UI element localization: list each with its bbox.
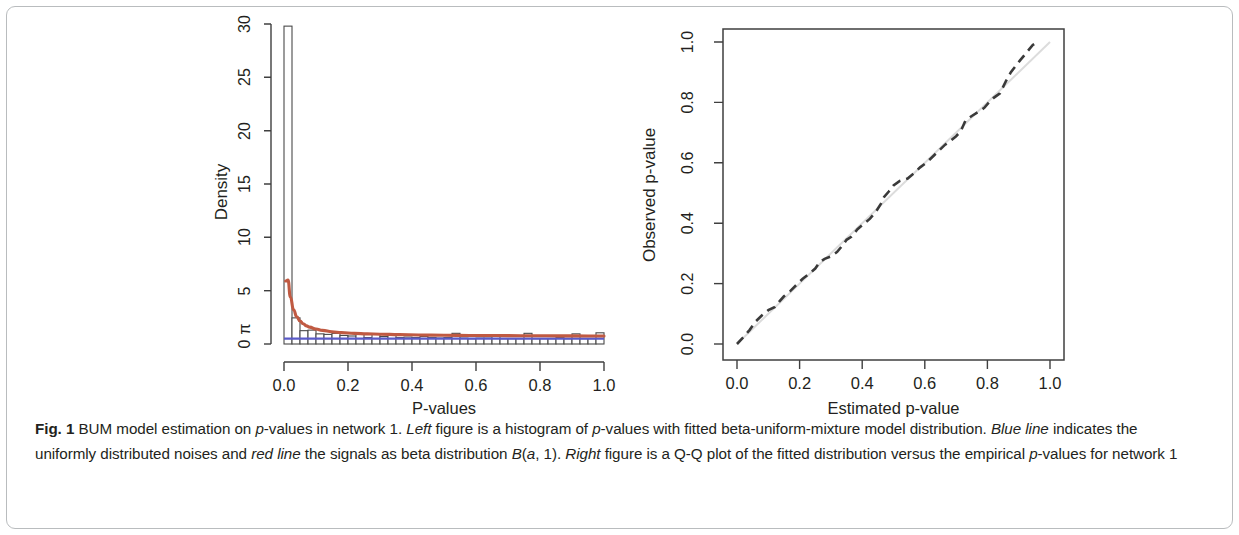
left-red-fitted-curve — [286, 280, 604, 336]
right-y-tick-0: 0.0 — [679, 333, 696, 355]
caption-part: p — [1029, 445, 1037, 462]
left-y-tick-5: 5 — [236, 286, 253, 295]
left-x-tick-labels: 0.0 0.2 0.4 0.6 0.8 1.0 — [273, 376, 616, 394]
left-y-tick-0: 0 — [236, 339, 253, 348]
right-x-tick-1: 0.2 — [788, 374, 811, 392]
right-x-tick-labels: 0.0 0.2 0.4 0.6 0.8 1.0 — [726, 374, 1062, 392]
left-x-tick-3: 0.6 — [465, 376, 488, 394]
caption-part: -values in network 1. — [264, 420, 406, 437]
left-x-tick-4: 0.8 — [529, 376, 552, 394]
caption-part: Fig. 1 — [35, 420, 79, 437]
right-x-tick-0: 0.0 — [726, 374, 749, 392]
left-y-tick-30: 30 — [236, 15, 253, 33]
caption-part: figure is a Q-Q plot of the fitted distr… — [605, 445, 1030, 462]
right-y-axis-title: Observed p-value — [640, 128, 659, 262]
figure-card: Density 30 25 20 15 10 — [6, 6, 1233, 529]
caption-part: Right — [565, 445, 604, 462]
histogram-bar — [348, 336, 356, 344]
figure-plot-area: Density 30 25 20 15 10 — [7, 7, 1233, 407]
caption-part: -values for network 1 — [1038, 445, 1178, 462]
right-x-axis-title: Estimated p-value — [827, 399, 959, 417]
left-x-tick-5: 1.0 — [593, 376, 616, 394]
caption-part: B — [512, 445, 522, 462]
left-y-tick-25: 25 — [236, 68, 253, 86]
caption-part: p — [255, 420, 263, 437]
right-qq-dashed-line — [737, 42, 1037, 344]
right-y-tick-3: 0.6 — [679, 152, 696, 174]
left-histogram-bars — [284, 26, 604, 344]
figure-plots-svg: Density 30 25 20 15 10 — [7, 7, 1233, 407]
right-y-tick-4: 0.8 — [679, 91, 696, 113]
right-panel-qqplot: Observed p-value 0.0 0.2 0.4 0.6 0.8 — [640, 29, 1064, 392]
right-y-axis-ticks — [714, 42, 723, 344]
figure-caption: Fig. 1 BUM model estimation on p-values … — [35, 417, 1200, 466]
left-y-tick-labels: 30 25 20 15 10 5 0 π — [236, 15, 253, 348]
left-y-axis-title: Density — [212, 163, 231, 220]
left-y-tick-10: 10 — [236, 228, 253, 246]
left-y-tick-pi: π — [236, 323, 253, 334]
left-x-tick-0: 0.0 — [273, 376, 296, 394]
left-y-tick-15: 15 — [236, 175, 253, 193]
right-y-tick-labels: 0.0 0.2 0.4 0.6 0.8 1.0 — [679, 31, 696, 355]
right-x-tick-2: 0.4 — [851, 374, 874, 392]
caption-part: Left — [406, 420, 435, 437]
left-x-tick-1: 0.2 — [337, 376, 360, 394]
caption-part: -values with fitted beta-uniform-mixture… — [601, 420, 991, 437]
caption-part: a — [527, 445, 535, 462]
histogram-bar — [300, 331, 308, 344]
caption-part: p — [592, 420, 600, 437]
right-x-tick-5: 1.0 — [1039, 374, 1062, 392]
caption-part: BUM model estimation on — [79, 420, 256, 437]
caption-part: figure is a histogram of — [436, 420, 593, 437]
right-x-axis-title-wrap: Estimated p-value — [723, 399, 1064, 418]
left-y-axis — [264, 24, 271, 344]
right-y-tick-2: 0.4 — [679, 212, 696, 234]
caption-part: red line — [251, 445, 305, 462]
left-y-tick-20: 20 — [236, 122, 253, 140]
right-y-tick-5: 1.0 — [679, 31, 696, 53]
caption-part: , 1). — [535, 445, 565, 462]
right-y-tick-1: 0.2 — [679, 272, 696, 294]
left-x-axis-title-wrap: P-values — [284, 399, 604, 418]
left-x-axis-title: P-values — [412, 399, 476, 417]
caption-part: Blue line — [991, 420, 1053, 437]
histogram-bar — [308, 330, 316, 344]
left-x-tick-2: 0.4 — [401, 376, 424, 394]
right-x-tick-4: 0.8 — [976, 374, 999, 392]
right-x-tick-3: 0.6 — [913, 374, 936, 392]
right-x-axis-ticks — [737, 360, 1050, 369]
caption-part: the signals as beta distribution — [305, 445, 512, 462]
left-x-axis — [284, 362, 604, 371]
left-panel-histogram: Density 30 25 20 15 10 — [212, 15, 615, 394]
